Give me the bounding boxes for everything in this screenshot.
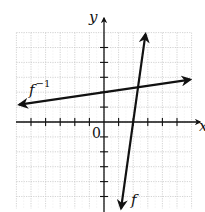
y-axis-label: y	[88, 8, 98, 26]
f-label: f	[130, 191, 139, 209]
labels: y x 0 f f−1	[28, 8, 205, 209]
coordinate-plane: y x 0 f f−1	[0, 0, 205, 212]
function-lines	[19, 34, 190, 208]
f-inverse-label: f−1	[28, 78, 50, 99]
origin-label: 0	[92, 125, 101, 141]
f-inverse-label-superscript: −1	[36, 78, 51, 89]
chart-container: y x 0 f f−1	[0, 0, 205, 212]
x-axis-label: x	[199, 117, 205, 135]
